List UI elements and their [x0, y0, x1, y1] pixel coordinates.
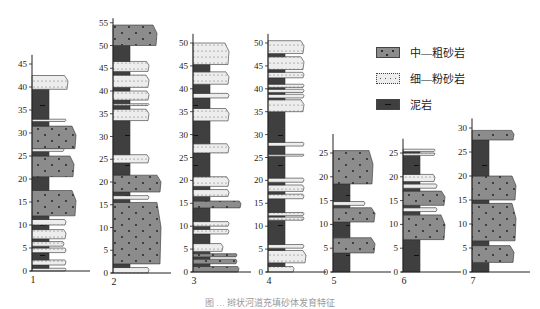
stratigraphic-column-5: 05101520255	[319, 134, 391, 286]
fine-sandstone-layer	[268, 72, 304, 77]
coarse-sandstone-layer	[333, 208, 375, 222]
tick-label: 35	[179, 107, 189, 117]
mudstone-layer	[193, 257, 210, 259]
fine-sandstone-layer	[113, 61, 149, 71]
mudstone-layer	[193, 121, 210, 144]
fine-sandstone-layer	[32, 242, 64, 247]
fine-sandstone-layer	[403, 174, 435, 181]
coarse-sandstone-layer	[193, 259, 237, 264]
legend-item-mudstone: 泥岩	[376, 94, 465, 114]
mudstone-layer	[472, 200, 489, 203]
coarse-sandstone-swatch-icon	[376, 47, 400, 58]
fine-sandstone-layer	[268, 185, 304, 191]
coarse-sandstone-layer	[472, 246, 514, 263]
fine-sandstone-layer	[113, 155, 149, 163]
fine-sandstone-layer	[193, 93, 229, 98]
mudstone-layer	[333, 253, 350, 272]
tick-label: 5	[394, 243, 399, 253]
mudstone-layer	[268, 191, 285, 194]
mudstone-layer	[193, 251, 210, 253]
mudstone-layer	[268, 220, 285, 244]
column-number-label: 4	[267, 275, 272, 286]
mudstone-layer	[32, 89, 49, 119]
mudstone-layer	[32, 216, 49, 220]
mudstone-layer	[113, 46, 130, 62]
tick-label: 15	[18, 197, 28, 207]
mudstone-layer	[113, 199, 130, 202]
tick-label: 40	[254, 84, 264, 94]
mudstone-layer	[268, 70, 285, 73]
coarse-sandstone-layer	[333, 238, 375, 253]
tick-label: 50	[99, 41, 109, 51]
tick-label: 25	[254, 153, 264, 163]
tick-label: 0	[104, 268, 109, 278]
mudstone-layer	[472, 262, 489, 272]
mudstone-layer	[193, 226, 210, 229]
mudstone-layer	[268, 199, 285, 213]
fine-sandstone-layer	[113, 91, 149, 100]
fine-sandstone-layer	[32, 260, 66, 265]
fine-sandstone-layer	[32, 119, 66, 121]
fine-sandstone-layer	[193, 108, 229, 120]
stratigraphic-column-2: 05101520253035404550552	[99, 18, 171, 287]
tick-label: 25	[18, 151, 28, 161]
mudstone-layer	[403, 182, 420, 184]
stratigraphic-column-1: 0510152025303540451	[18, 55, 90, 285]
legend-label: 中—粗砂岩	[410, 44, 465, 60]
tick-label: 10	[458, 219, 468, 229]
mudstone-layer	[403, 188, 420, 191]
mudstone-layer	[472, 241, 489, 246]
mudstone-layer	[333, 184, 350, 202]
mudstone-swatch-icon	[376, 99, 400, 110]
fine-sandstone-layer	[268, 142, 304, 146]
fine-sandstone-layer	[268, 41, 304, 54]
tick-label: 10	[99, 223, 109, 233]
mudstone-layer	[268, 156, 285, 178]
mudstone-layer	[193, 153, 210, 177]
fine-sandstone-layer	[333, 202, 365, 206]
tick-label: 0	[259, 267, 264, 277]
tick-label: 15	[254, 198, 264, 208]
tick-label: 30	[458, 123, 468, 133]
column-number-label: 7	[471, 275, 476, 286]
fine-sandstone-layer	[193, 190, 229, 197]
fine-sandstone-layer	[193, 177, 229, 187]
mudstone-layer	[193, 98, 210, 109]
tick-label: 10	[18, 220, 28, 230]
coarse-sandstone-layer	[333, 151, 373, 184]
tick-label: 0	[324, 267, 329, 277]
mudstone-layer	[113, 71, 130, 75]
coarse-sandstone-layer	[193, 201, 241, 208]
fine-sandstone-layer	[268, 267, 294, 272]
tick-label: 25	[319, 148, 329, 158]
fine-sandstone-layer	[403, 184, 437, 188]
coarse-sandstone-layer	[113, 175, 161, 192]
fine-sandstone-layer	[403, 208, 437, 212]
tick-label: 20	[179, 175, 189, 185]
tick-label: 40	[99, 86, 109, 96]
mudstone-layer	[113, 100, 130, 104]
mudstone-layer	[113, 87, 130, 91]
tick-label: 20	[319, 172, 329, 182]
mudstone-layer	[113, 192, 130, 196]
mudstone-layer	[333, 222, 350, 238]
tick-label: 35	[18, 105, 28, 115]
mudstone-layer	[193, 234, 210, 244]
tick-label: 10	[389, 219, 399, 229]
fine-sandstone-layer	[268, 212, 304, 215]
mudstone-layer	[193, 186, 210, 189]
column-number-label: 5	[332, 275, 337, 286]
legend-label: 细—粉砂岩	[410, 70, 465, 86]
tick-label: 15	[458, 195, 468, 205]
tick-label: 10	[319, 219, 329, 229]
fine-sandstone-layer	[32, 76, 68, 90]
tick-label: 25	[389, 148, 399, 158]
legend-item-coarse-sandstone: 中—粗砂岩	[376, 42, 465, 62]
tick-label: 35	[99, 109, 109, 119]
fine-sandstone-layer	[193, 244, 223, 252]
tick-label: 0	[184, 267, 189, 277]
mudstone-layer	[268, 248, 285, 250]
tick-label: 25	[179, 153, 189, 163]
fine-sandstone-layer	[268, 250, 306, 262]
mudstone-layer	[32, 225, 49, 230]
